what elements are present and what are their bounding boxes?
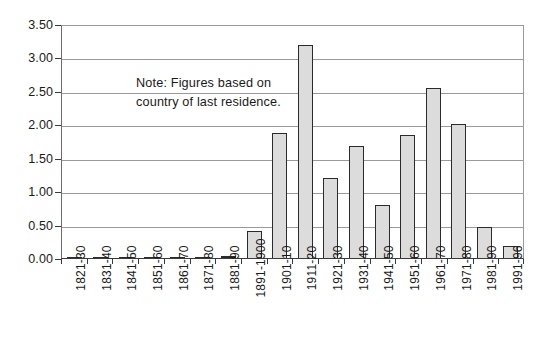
x-axis-label-slot: 1871-80 (190, 266, 216, 344)
plot-area: Note: Figures based oncountry of last re… (61, 25, 524, 259)
x-axis-labels: 1821-301831-401841-501851-601861-701871-… (61, 266, 524, 344)
x-axis-label-slot: 1891-1900 (241, 266, 267, 344)
x-axis-label-slot: 1831-40 (87, 266, 113, 344)
y-axis-tick-label: 0.00 (28, 252, 53, 266)
x-axis-label-slot: 1851-60 (138, 266, 164, 344)
y-axis-tick-label: 0.50 (28, 219, 53, 233)
bar-slot (421, 26, 447, 258)
y-axis-tick-label: 1.00 (28, 185, 53, 199)
bar-slot (216, 26, 242, 258)
bar-slot (267, 26, 293, 258)
bar-slot (472, 26, 498, 258)
x-axis-label-slot: 1931-40 (344, 266, 370, 344)
y-axis-tick-label: 2.00 (28, 118, 53, 132)
x-axis-label-slot: 1861-70 (164, 266, 190, 344)
x-axis-tick-mark (61, 259, 62, 264)
bar-slot (344, 26, 370, 258)
annotation-line: Note: Figures based on (136, 74, 351, 93)
y-axis: 0.000.501.001.502.002.503.003.50 (0, 0, 53, 344)
x-axis-label-slot: 1901-10 (267, 266, 293, 344)
bar-slot (88, 26, 114, 258)
chart-annotation: Note: Figures based oncountry of last re… (136, 74, 351, 112)
bar-slot (292, 26, 318, 258)
x-axis-label-slot: 1881-90 (215, 266, 241, 344)
bar (400, 135, 415, 258)
bar (451, 124, 466, 258)
y-axis-tick-mark (55, 159, 61, 160)
y-axis-tick-label: 1.50 (28, 152, 53, 166)
bar-slot (164, 26, 190, 258)
bar (349, 146, 364, 258)
x-axis-label-slot: 1841-50 (112, 266, 138, 344)
bar-slot (190, 26, 216, 258)
y-axis-tick-mark (55, 58, 61, 59)
y-axis-tick-mark (55, 226, 61, 227)
bar (272, 133, 287, 258)
chart-figure: 0.000.501.001.502.002.503.003.50 Note: F… (0, 0, 551, 344)
x-axis-label-slot: 1991-96 (498, 266, 524, 344)
annotation-line: country of last residence. (136, 93, 351, 112)
bar-slot (139, 26, 165, 258)
x-axis-label-slot: 1951-60 (395, 266, 421, 344)
y-axis-tick-label: 3.00 (28, 51, 53, 65)
y-axis-tick-label: 3.50 (28, 18, 53, 32)
bar-slot (113, 26, 139, 258)
x-axis-label-slot: 1981-90 (473, 266, 499, 344)
bar-series (62, 26, 523, 258)
y-axis-tick-mark (55, 192, 61, 193)
bar-slot (446, 26, 472, 258)
y-axis-tick-label: 2.50 (28, 85, 53, 99)
bar-slot (395, 26, 421, 258)
bar-slot (369, 26, 395, 258)
x-axis-label-slot: 1941-50 (370, 266, 396, 344)
x-axis-label-slot: 1911-20 (292, 266, 318, 344)
bar (426, 88, 441, 258)
bar-slot (62, 26, 88, 258)
x-axis-label-slot: 1821-30 (61, 266, 87, 344)
y-axis-tick-mark (55, 259, 61, 260)
y-axis-tick-mark (55, 92, 61, 93)
x-axis-label-slot: 1961-70 (421, 266, 447, 344)
bar-slot (497, 26, 523, 258)
y-axis-tick-mark (55, 25, 61, 26)
x-axis-label-slot: 1921-30 (318, 266, 344, 344)
y-axis-tick-mark (55, 125, 61, 126)
x-axis-label-slot: 1971-80 (447, 266, 473, 344)
bar-slot (318, 26, 344, 258)
bar-slot (241, 26, 267, 258)
x-axis-tick-label: 1991-96 (511, 245, 525, 290)
